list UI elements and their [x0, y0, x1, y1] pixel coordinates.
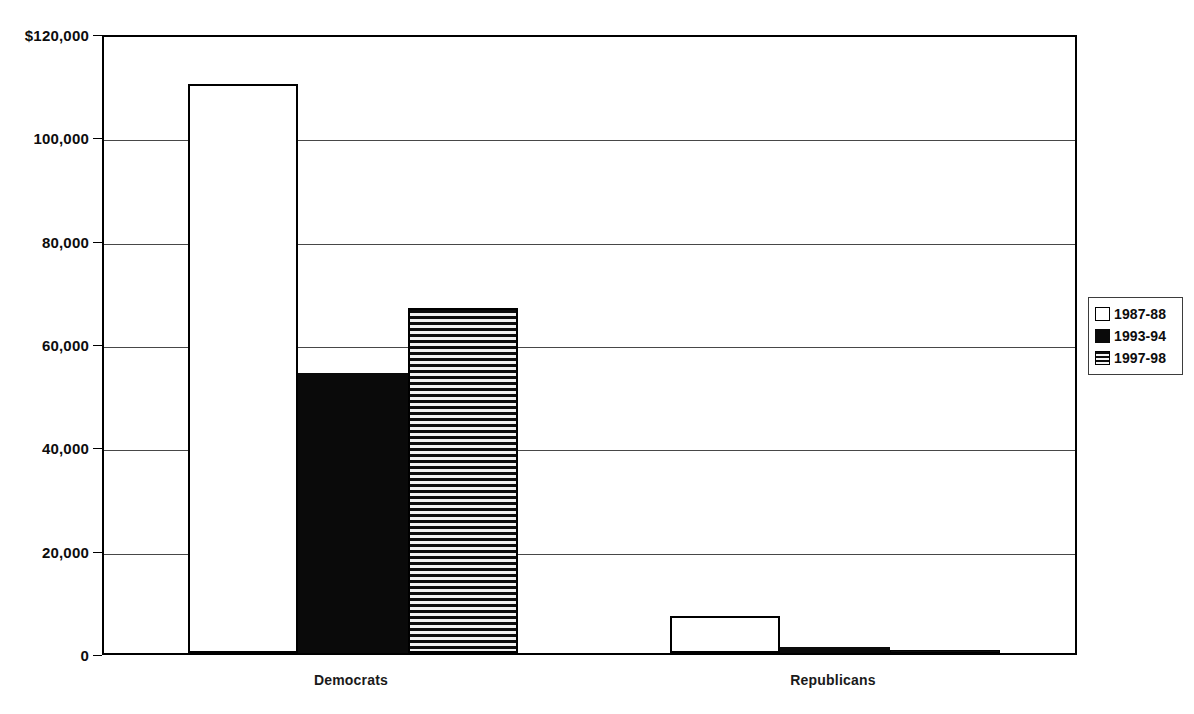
y-axis-label: 80,000: [42, 233, 89, 250]
y-axis-tick: [93, 35, 102, 36]
legend-label: 1997-98: [1114, 350, 1166, 366]
chart-legend: 1987-881993-941997-98: [1088, 297, 1183, 375]
y-axis-tick: [93, 138, 102, 139]
legend-label: 1993-94: [1114, 328, 1166, 344]
legend-item-1997-98: 1997-98: [1095, 347, 1177, 369]
x-axis-label-democrats: Democrats: [314, 672, 388, 688]
bar-chart-figure: $120,000100,00080,00060,00040,00020,0000…: [0, 0, 1194, 714]
y-axis-label: 0: [80, 647, 89, 664]
y-axis-tick: [93, 655, 102, 656]
bar-republicans-1993-94: [780, 647, 890, 653]
y-axis-label: 20,000: [42, 543, 89, 560]
y-axis-tick: [93, 552, 102, 553]
y-axis-tick: [93, 345, 102, 346]
plot-area: [102, 35, 1077, 655]
bar-democrats-1987-88: [188, 84, 298, 653]
bar-democrats-1993-94: [298, 373, 408, 653]
legend-label: 1987-88: [1114, 306, 1166, 322]
y-axis-label: $120,000: [25, 27, 89, 44]
x-axis-label-republicans: Republicans: [790, 672, 875, 688]
bar-republicans-1987-88: [670, 616, 780, 653]
y-axis-tick: [93, 242, 102, 243]
legend-swatch-icon: [1095, 329, 1110, 343]
bar-democrats-1997-98: [408, 308, 518, 653]
y-axis: $120,000100,00080,00060,00040,00020,0000: [0, 35, 102, 655]
y-axis-label: 100,000: [33, 130, 89, 147]
y-axis-label: 40,000: [42, 440, 89, 457]
legend-swatch-icon: [1095, 307, 1110, 321]
legend-swatch-icon: [1095, 351, 1110, 365]
legend-item-1987-88: 1987-88: [1095, 303, 1177, 325]
y-axis-label: 60,000: [42, 337, 89, 354]
y-axis-tick: [93, 448, 102, 449]
bar-republicans-1997-98: [890, 650, 1000, 653]
legend-item-1993-94: 1993-94: [1095, 325, 1177, 347]
